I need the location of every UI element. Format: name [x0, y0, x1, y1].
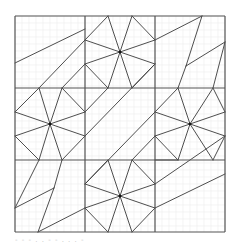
shape-edge [120, 16, 132, 52]
shape-edge [155, 124, 190, 136]
shape-edge [39, 88, 50, 124]
shape-edge [155, 136, 178, 160]
shape-edge [85, 16, 108, 40]
shape-edge [186, 16, 202, 66]
shape-edge [178, 88, 190, 124]
shape-edge [85, 40, 120, 52]
shape-edge [132, 16, 155, 40]
shape-edge [186, 42, 225, 66]
caption-text: - - - . . - - . . . - [15, 236, 225, 246]
star-middle-right-center [189, 123, 191, 125]
shape-edge [178, 66, 186, 88]
shape-edge [190, 88, 213, 124]
tiling-diagram [0, 0, 238, 248]
shape-edge [50, 88, 62, 124]
shape-edge [120, 52, 132, 88]
shape-edge [132, 160, 155, 184]
shape-edge [120, 196, 132, 232]
shape-edge [120, 40, 155, 52]
shape-edge [62, 64, 85, 88]
shape-edge [108, 16, 120, 52]
shape-edge [85, 64, 108, 88]
shape-edge [50, 124, 85, 136]
shape-edge [108, 52, 120, 88]
shape-edge [120, 184, 155, 196]
shape-edge [85, 208, 108, 232]
minor-grid [15, 16, 225, 232]
shape-edge [120, 160, 132, 196]
shape-edge [108, 160, 120, 196]
shape-edge [15, 136, 39, 160]
shape-edge [132, 208, 155, 232]
star-bottom-center-center [119, 195, 121, 197]
shape-edge [62, 136, 85, 160]
shape-edge [190, 124, 225, 136]
shape-edge [15, 124, 50, 136]
star-middle-left-center [49, 123, 51, 125]
star-top-center-center [119, 51, 121, 53]
shape-edge [85, 184, 120, 196]
shape-edge [132, 136, 155, 160]
shape-edge [108, 196, 120, 232]
shape-edge [85, 160, 108, 184]
